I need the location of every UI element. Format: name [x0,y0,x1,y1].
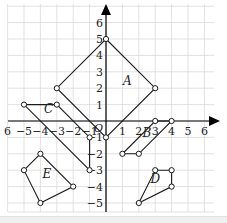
vertex-point [169,118,174,123]
y-tick-label: −4 [87,181,103,194]
vertex-point [103,36,108,41]
vertex-point [21,168,26,173]
y-tick-label: 6 [96,17,103,30]
y-tick-label: −5 [87,197,103,210]
vertex-point [38,151,43,156]
vertex-point [103,135,108,140]
vertex-point [136,151,141,156]
x-tick-label: 6 [201,125,208,138]
shape-label: E [42,167,52,181]
bottom-strip [0,216,227,223]
shape-label: A [122,74,132,88]
vertex-point [153,86,158,91]
vertex-point [87,135,92,140]
x-tick-label: 1 [119,125,126,138]
vertex-point [153,118,158,123]
shape-e: E [21,151,75,205]
vertex-point [169,184,174,189]
x-tick-label: −5 [16,125,32,138]
y-tick-label: 2 [96,82,103,95]
shape-label: B [142,126,152,140]
y-tick-label: 3 [96,66,103,79]
x-tick-label: 5 [185,125,192,138]
y-axis-arrow-icon [101,4,111,15]
vertex-point [136,200,141,205]
vertex-point [71,184,76,189]
coordinate-plane: 6−5−4−3−2−1123456654321−1−2−3−4−5O ABCDE [0,0,227,216]
y-tick-label: 4 [96,49,103,62]
shape-label: D [149,172,160,186]
grid-lines [8,4,214,212]
x-tick-label: 3 [152,125,159,138]
x-tick-label: 6 [4,125,11,138]
y-tick-label: 1 [96,99,103,112]
vertex-point [21,102,26,107]
vertex-point [38,200,43,205]
x-tick-label: 2 [135,125,142,138]
x-tick-label: 4 [168,125,175,138]
y-tick-label: 5 [96,33,103,46]
vertex-point [87,168,92,173]
shape-label: C [44,102,53,116]
vertex-point [120,151,125,156]
vertex-point [54,86,59,91]
vertex-point [54,102,59,107]
vertex-point [169,168,174,173]
x-axis-arrow-icon [209,116,220,126]
